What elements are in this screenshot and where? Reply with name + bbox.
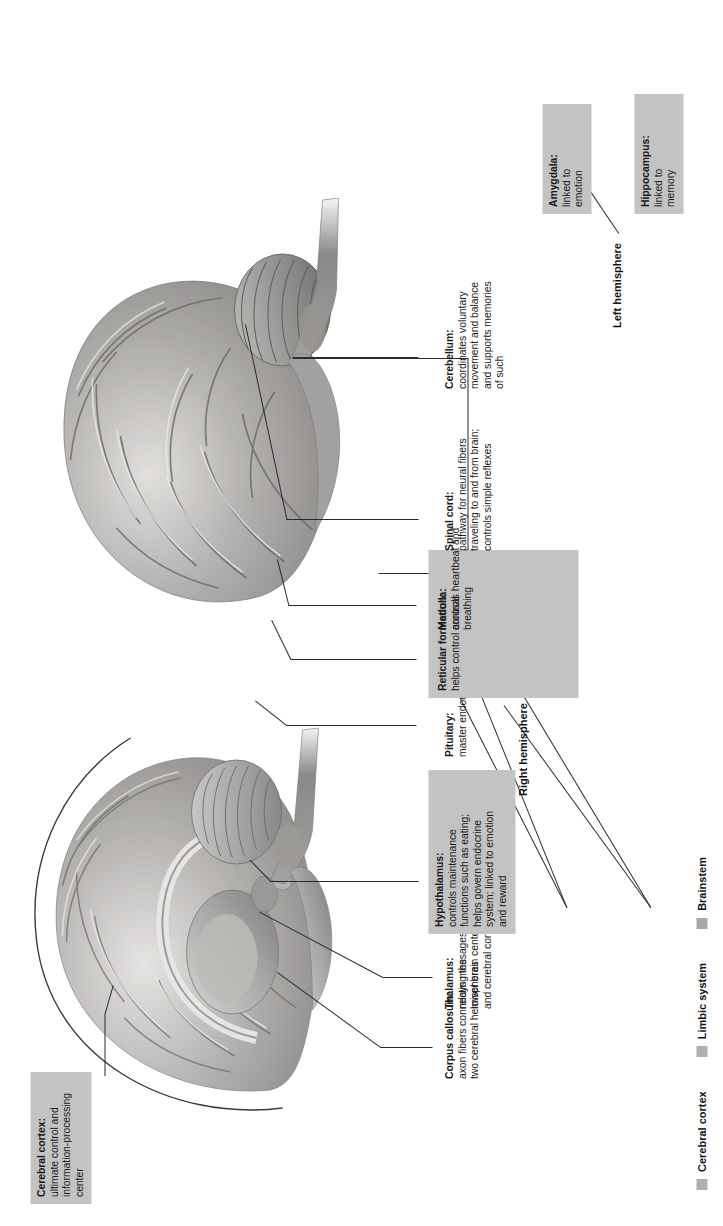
- label-line: memory: [664, 101, 677, 207]
- legend-label: Brainstem: [695, 857, 707, 911]
- leader-pituitary: [286, 725, 416, 726]
- leader-corpus-callosum: [380, 1047, 432, 1048]
- leader-thalamus: [382, 977, 432, 978]
- label-hippocampus: Hippocampus: linked to memory: [634, 94, 683, 214]
- label-line: ultimate control and: [48, 1079, 61, 1197]
- label-line: linked to: [560, 111, 573, 207]
- label-left-hemisphere: Left hemisphere: [610, 243, 622, 328]
- legend-item-cerebral-cortex: Cerebral cortex: [695, 1091, 707, 1190]
- legend-label: Cerebral cortex: [695, 1091, 707, 1172]
- label-title-spinal-cord: Spinal cord:: [443, 395, 456, 551]
- midsagittal-brain-illustration: [20, 710, 365, 1130]
- label-line: helps govern endocrine: [471, 777, 484, 927]
- label-line: information-processing: [60, 1079, 73, 1197]
- label-line: center: [73, 1079, 86, 1197]
- label-title-cerebellum: Cerebellum:: [443, 239, 456, 389]
- label-line: traveling to and from brain;: [468, 395, 481, 551]
- legend-swatch-limbic-system: [696, 1046, 707, 1057]
- label-hypothalamus: Hypothalamus: controls maintenance funct…: [428, 770, 515, 934]
- label-line: system; linked to emotion: [483, 777, 496, 927]
- label-cerebellum: Cerebellum: coordinates voluntary moveme…: [438, 232, 512, 396]
- label-cerebral-cortex: Cerebral cortex: ultimate control and in…: [30, 1072, 91, 1204]
- label-spinal-cord: Spinal cord: pathway for neural fibers t…: [438, 388, 499, 558]
- label-line: functions such as eating;: [458, 777, 471, 927]
- label-line: of such: [493, 239, 506, 389]
- leader-spinal-cord: [286, 519, 418, 520]
- label-line: controls simple reflexes: [481, 395, 494, 551]
- label-line: coordinates voluntary: [456, 239, 469, 389]
- label-line: pathway for neural fibers: [456, 395, 469, 551]
- legend-swatch-cerebral-cortex: [696, 1179, 707, 1190]
- label-line: emotion: [572, 111, 585, 207]
- label-line: linked to: [652, 101, 665, 207]
- leader-medulla: [288, 605, 416, 606]
- brain-diagram: Cerebral cortex: ultimate control and in…: [0, 0, 723, 1226]
- label-amygdala: Amygdala: linked to emotion: [542, 104, 591, 214]
- legend: Cerebral cortex Limbic system Brainstem: [695, 857, 707, 1190]
- legend-item-brainstem: Brainstem: [695, 857, 707, 929]
- legend-label: Limbic system: [695, 963, 707, 1039]
- leader-reticular-formation: [290, 659, 416, 660]
- lateral-brain-illustration: [46, 198, 396, 628]
- label-title-hypothalamus: Hypothalamus:: [433, 777, 446, 927]
- legend-swatch-brainstem: [696, 918, 707, 929]
- leader-hippocampus-2: [515, 683, 651, 908]
- label-title-cerebral-cortex: Cerebral cortex:: [35, 1079, 48, 1197]
- label-right-hemisphere: Right hemisphere: [516, 703, 528, 796]
- label-line: controls maintenance: [446, 777, 459, 927]
- figure-page: Cerebral cortex: ultimate control and in…: [0, 0, 723, 1226]
- label-title-hippocampus: Hippocampus:: [639, 101, 652, 207]
- leader-hypothalamus: [270, 881, 418, 882]
- label-line: movement and balance: [468, 239, 481, 389]
- label-title-amygdala: Amygdala:: [547, 111, 560, 207]
- legend-item-limbic-system: Limbic system: [695, 963, 707, 1057]
- leader-cerebral-cortex: [104, 1014, 105, 1076]
- label-line: and reward: [496, 777, 509, 927]
- label-line: and supports memories: [481, 239, 494, 389]
